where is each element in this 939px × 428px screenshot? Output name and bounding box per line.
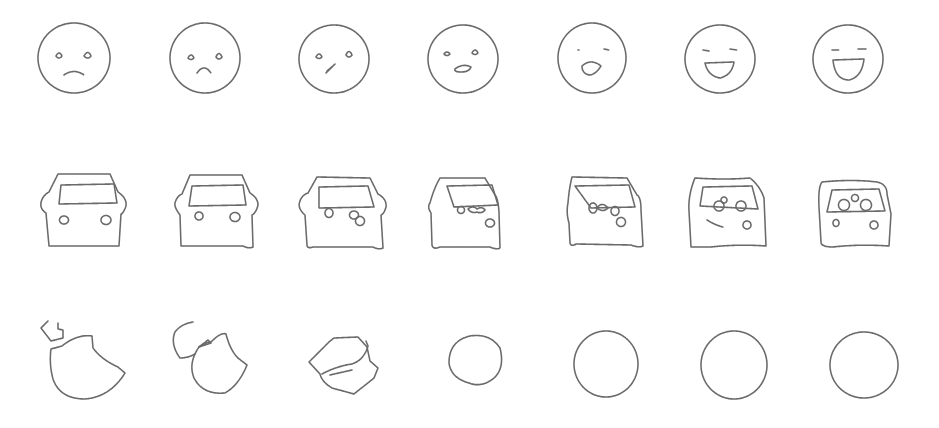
sketch-grid <box>0 0 939 428</box>
apple-sketch-2 <box>173 322 247 393</box>
car-sketch-7 <box>819 181 891 248</box>
face-sketch-7 <box>813 25 883 93</box>
car-sketch-1 <box>41 174 126 246</box>
face-sketch-4 <box>428 25 498 93</box>
car-sketch-4 <box>429 178 500 249</box>
circle-sketch-6 <box>701 331 767 399</box>
face-sketch-2 <box>170 23 240 93</box>
circle-sketch-5 <box>574 331 638 397</box>
apple-sketch-1 <box>41 321 125 399</box>
car-row <box>41 174 891 249</box>
face-sketch-1 <box>38 23 110 93</box>
circle-sketch-7 <box>830 332 898 398</box>
face-sketch-6 <box>685 25 755 93</box>
face-sketch-3 <box>299 25 369 93</box>
car-sketch-2 <box>175 175 258 248</box>
car-sketch-6 <box>689 178 766 247</box>
circle-sketch-4 <box>449 336 502 385</box>
car-sketch-5 <box>567 177 643 247</box>
car-sketch-3 <box>299 177 386 249</box>
circle-row <box>41 321 898 399</box>
face-row <box>38 23 883 93</box>
apple-sketch-3 <box>309 337 378 394</box>
face-sketch-5 <box>558 23 626 93</box>
